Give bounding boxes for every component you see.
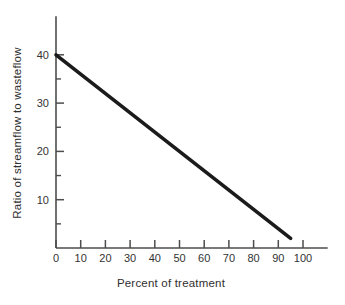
x-tick-label: 50 [173,252,185,264]
x-axis-label: Percent of treatment [117,277,225,289]
y-tick-label: 30 [37,97,49,109]
streamflow-ratio-line [56,55,291,239]
x-tick-label: 30 [124,252,136,264]
chart-figure: 010203040506070809010010203040 Ratio of … [0,0,345,305]
y-tick-label: 10 [37,194,49,206]
x-tick-label: 20 [99,252,111,264]
x-tick-label: 0 [53,252,59,264]
x-tick-label: 10 [75,252,87,264]
y-tick-label: 40 [37,49,49,61]
x-tick-label: 40 [149,252,161,264]
x-tick-label: 100 [294,252,312,264]
x-tick-label: 80 [247,252,259,264]
x-tick-label: 90 [272,252,284,264]
y-axis-label: Ratio of streamflow to wasteflow [11,47,23,218]
x-tick-label: 60 [198,252,210,264]
line-chart-canvas: 010203040506070809010010203040 [0,0,345,305]
x-tick-label: 70 [223,252,235,264]
y-tick-label: 20 [37,145,49,157]
